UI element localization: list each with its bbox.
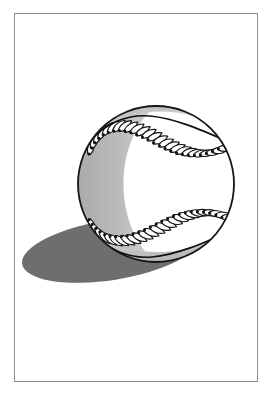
image-canvas xyxy=(0,0,271,399)
artboard xyxy=(0,0,271,399)
baseball-illustration xyxy=(0,0,271,399)
